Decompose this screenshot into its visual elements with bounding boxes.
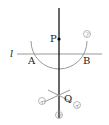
step-mark-bottom: ウ bbox=[57, 112, 62, 118]
step-mark-left: イ bbox=[40, 98, 45, 104]
point-p bbox=[57, 37, 60, 40]
label-b: B bbox=[83, 55, 90, 66]
step-mark-top: ア bbox=[85, 31, 90, 38]
perpendicular-diagram: l P A B Q ア イ イ ウ bbox=[0, 0, 109, 125]
step-mark-right: イ bbox=[75, 102, 80, 108]
label-a: A bbox=[27, 55, 36, 66]
label-line-l: l bbox=[10, 48, 13, 59]
label-p: P bbox=[50, 33, 57, 44]
diagram-canvas: l P A B Q ア イ イ ウ bbox=[0, 0, 109, 125]
label-q: Q bbox=[64, 93, 72, 104]
